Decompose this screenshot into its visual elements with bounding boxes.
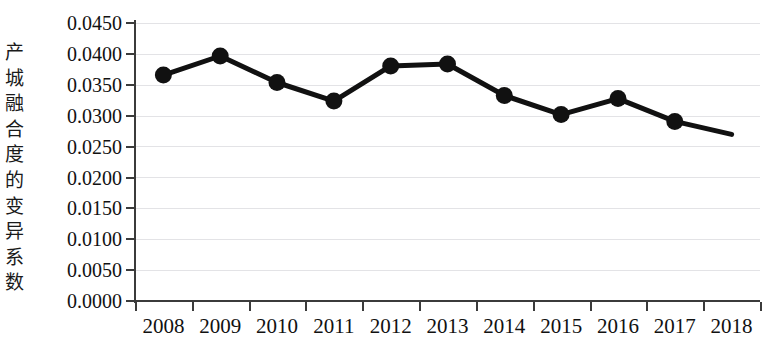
- x-axis-tick-mark: [703, 302, 705, 311]
- x-axis-tick-label: 2018: [700, 313, 762, 339]
- data-point-marker: [666, 113, 683, 130]
- x-axis-tick-mark: [249, 302, 251, 311]
- data-point-marker: [553, 106, 570, 123]
- x-axis-tick-labels: 2008200920102011201220132014201520162017…: [0, 313, 762, 349]
- y-axis-tick-mark: [126, 84, 135, 86]
- y-axis-tick-mark: [126, 22, 135, 24]
- data-point-marker: [155, 67, 172, 84]
- y-axis-tick-mark: [126, 146, 135, 148]
- y-axis-tick-mark: [126, 115, 135, 117]
- data-point-marker: [212, 48, 229, 65]
- data-point-marker: [382, 57, 399, 74]
- x-axis-tick-mark: [305, 302, 307, 311]
- x-axis-tick-label: 2015: [529, 313, 593, 339]
- y-axis-tick-mark: [126, 238, 135, 240]
- chart-figure: 产城融合度的变异系数 0.04500.04000.03500.03000.025…: [0, 0, 762, 356]
- x-axis-tick-label: 2013: [416, 313, 480, 339]
- x-axis-tick-mark: [419, 302, 421, 311]
- x-axis-tick-label: 2008: [131, 313, 195, 339]
- x-axis-tick-mark: [646, 302, 648, 311]
- x-axis-tick-mark: [135, 302, 137, 311]
- x-axis-tick-mark: [533, 302, 535, 311]
- data-point-marker: [269, 74, 286, 91]
- x-axis-tick-label: 2014: [472, 313, 536, 339]
- x-axis-tick-label: 2010: [245, 313, 309, 339]
- data-point-marker: [439, 56, 456, 73]
- x-axis-tick-label: 2009: [188, 313, 252, 339]
- x-axis-tick-mark: [590, 302, 592, 311]
- y-axis-tick-mark: [126, 300, 135, 302]
- x-axis-tick-label: 2016: [586, 313, 650, 339]
- y-axis-tick-mark: [126, 269, 135, 271]
- y-axis-tick-mark: [126, 207, 135, 209]
- x-axis-tick-mark: [476, 302, 478, 311]
- y-axis-tick-mark: [126, 53, 135, 55]
- x-axis-tick-mark: [362, 302, 364, 311]
- x-axis-tick-label: 2017: [643, 313, 707, 339]
- y-axis-tick-mark: [126, 177, 135, 179]
- x-axis-tick-label: 2012: [359, 313, 423, 339]
- x-axis-tick-label: 2011: [302, 313, 366, 339]
- x-axis-tick-mark: [192, 302, 194, 311]
- data-point-marker: [325, 93, 342, 110]
- data-point-marker: [610, 90, 627, 107]
- data-point-marker: [496, 87, 513, 104]
